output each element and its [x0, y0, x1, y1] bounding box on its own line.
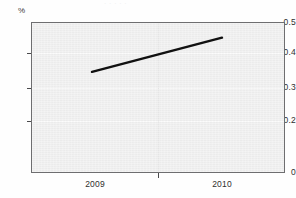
y-axis-unit-label: %	[18, 6, 25, 15]
x-tick-label-2009: 2009	[73, 180, 117, 189]
vertical-gridline-mid	[158, 23, 159, 172]
x-tick-mark-mid	[158, 173, 159, 178]
cropped-title-remnant: · · · · ·	[104, 0, 184, 5]
plot-area	[31, 22, 285, 173]
x-tick-label-2010: 2010	[200, 180, 244, 189]
chart-figure: · · · · · % 0.5 0.4 0.3 0.2 0 2009 2010	[0, 0, 296, 198]
